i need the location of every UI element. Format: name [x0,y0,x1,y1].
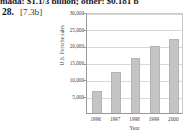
bar [169,39,179,114]
y-tick-label: 5,000 [58,94,84,100]
y-tick-label: 10,000 [58,77,84,83]
gridline [87,14,182,15]
bar [92,91,102,114]
x-axis-title: Year [86,125,183,131]
plot-area [86,13,183,114]
x-tick-label: 2000 [161,116,185,122]
bar [111,72,121,114]
y-tick-label: 20,000 [58,43,84,49]
answer-tag: [7.3b] [20,7,42,17]
gridline [87,47,182,48]
y-tick-label: 15,000 [58,60,84,66]
bar [150,46,160,114]
y-tick-label: 30,000 [58,10,84,16]
exercise-number: 28. [2,7,14,17]
bar-chart-figure: U.S. Porsche sales 5,00010,00015,00020,0… [55,8,185,137]
cut-off-header-text: mada: $1.1/3 billion; other: $0.181 b [0,0,187,5]
bar [131,58,141,114]
y-tick-label: 25,000 [58,27,84,33]
gridline [87,30,182,31]
page-canvas: mada: $1.1/3 billion; other: $0.181 b 28… [0,0,187,137]
